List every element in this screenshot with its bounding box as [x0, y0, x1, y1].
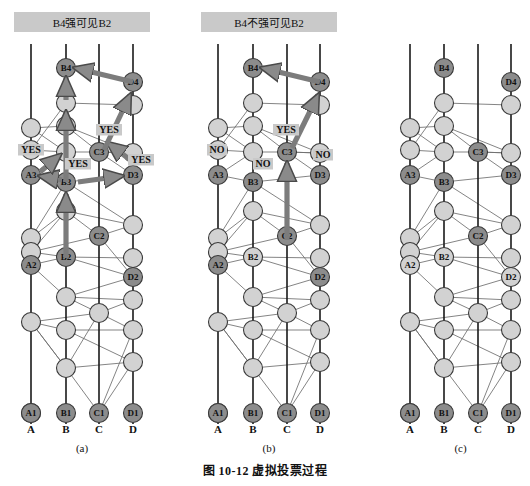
node-label: B3	[248, 177, 259, 187]
event-node-B1: B1	[57, 404, 76, 423]
event-node-C1: C1	[469, 404, 488, 423]
node-label: B3	[439, 177, 450, 187]
event-node	[502, 216, 521, 235]
event-node	[244, 117, 263, 136]
gossip-edge	[99, 330, 133, 413]
figure-canvas: A1B1C1D1A2B2C2D2A3B3C3D3B4D4A1B1C1D1A2B2…	[0, 0, 530, 486]
panel-label-a: (a)	[76, 442, 89, 455]
event-node-B4: B4	[57, 59, 76, 78]
event-node	[502, 96, 521, 115]
event-node	[57, 288, 76, 307]
event-node	[435, 359, 454, 378]
event-node-C3: C3	[469, 143, 488, 162]
event-node-D2: D2	[311, 268, 330, 287]
event-node-C1: C1	[90, 404, 109, 423]
axis-label-B: B	[440, 423, 448, 435]
vote-label-b-0: NO	[210, 144, 225, 155]
figure-caption: 图 10-12 虚拟投票过程	[0, 461, 530, 479]
event-node-D1: D1	[311, 404, 330, 423]
event-node-D3: D3	[311, 166, 330, 185]
event-node-B4: B4	[244, 59, 263, 78]
node-label: A1	[26, 408, 37, 418]
axis-label-A: A	[406, 423, 414, 435]
banner-layer: B4强可见B2B4不强可见B2	[14, 12, 337, 32]
node-label: D2	[128, 272, 139, 282]
event-node-D2: D2	[124, 268, 143, 287]
axis-label-D: D	[507, 423, 515, 435]
node-label: C1	[473, 408, 484, 418]
event-node	[502, 321, 521, 340]
node-label: C1	[94, 408, 105, 418]
event-node	[124, 321, 143, 340]
gossip-edge	[478, 330, 511, 413]
event-node	[311, 353, 330, 372]
event-node-A1: A1	[401, 404, 420, 423]
node-label: A3	[213, 170, 224, 180]
event-node	[57, 321, 76, 340]
node-label: B1	[61, 408, 72, 418]
event-node	[124, 249, 143, 268]
vote-arrow-b3-to-d3	[78, 176, 122, 182]
event-node	[502, 144, 521, 163]
panel-banner-text-b: B4不强可见B2	[234, 17, 304, 29]
vote-label-b-1: NO	[256, 158, 271, 169]
axis-label-D: D	[129, 423, 137, 435]
panel-banner-text-a: B4强可见B2	[53, 17, 112, 29]
node-label: D1	[128, 408, 139, 418]
event-node-B2: B2	[244, 248, 263, 267]
event-node	[22, 313, 41, 332]
panel-label-c: (c)	[454, 442, 467, 455]
event-node-A2: A2	[22, 256, 41, 275]
axis-label-A: A	[27, 423, 35, 435]
node-label: B2	[439, 252, 450, 262]
node-label: D4	[506, 77, 517, 87]
event-node-A2: A2	[209, 256, 228, 275]
vote-arrow-d4-to-b4	[262, 68, 320, 82]
event-node-D3: D3	[502, 166, 521, 185]
axis-label-A: A	[214, 423, 222, 435]
event-node-D4: D4	[502, 73, 521, 92]
event-node	[124, 291, 143, 310]
event-node-D2: D2	[502, 268, 521, 287]
event-node-C2: C2	[90, 227, 109, 246]
vote-arrow-d4-to-b4	[75, 68, 133, 82]
event-node	[57, 359, 76, 378]
node-label: D2	[506, 272, 517, 282]
node-label: B2	[248, 252, 259, 262]
node-layer: A1B1C1D1A2B2C2D2A3B3C3D3B4D4A1B1C1D1A2B2…	[22, 59, 521, 423]
event-node	[22, 119, 41, 138]
vote-label-a-1: YES	[68, 158, 88, 169]
event-node	[435, 143, 454, 162]
event-node	[502, 249, 521, 268]
event-node-A1: A1	[209, 404, 228, 423]
event-node	[124, 216, 143, 235]
event-node	[209, 119, 228, 138]
event-node	[435, 321, 454, 340]
node-label: C2	[94, 231, 105, 241]
vote-arrow-c3-to-d4	[292, 95, 318, 148]
axis-label-C: C	[283, 423, 291, 435]
node-label: B4	[439, 63, 450, 73]
vote-arrow-a3-to-b-node	[40, 155, 60, 172]
axis-label-C: C	[474, 423, 482, 435]
node-label: A1	[405, 408, 416, 418]
node-label: D2	[315, 272, 326, 282]
event-node	[401, 119, 420, 138]
event-node-B3: B3	[435, 173, 454, 192]
node-label: A3	[26, 170, 37, 180]
event-node	[435, 288, 454, 307]
event-node	[502, 291, 521, 310]
vote-label-b-3: NO	[316, 149, 331, 160]
event-node	[278, 304, 297, 323]
event-node-A2: A2	[401, 256, 420, 275]
event-node-A3: A3	[401, 166, 420, 185]
event-node-B4: B4	[435, 59, 454, 78]
node-label: B1	[439, 408, 450, 418]
axis-label-D: D	[316, 423, 324, 435]
event-node	[435, 117, 454, 136]
node-label: D1	[315, 408, 326, 418]
event-node	[244, 202, 263, 221]
event-node	[435, 94, 454, 113]
node-label: D3	[128, 170, 139, 180]
event-node-A3: A3	[209, 166, 228, 185]
